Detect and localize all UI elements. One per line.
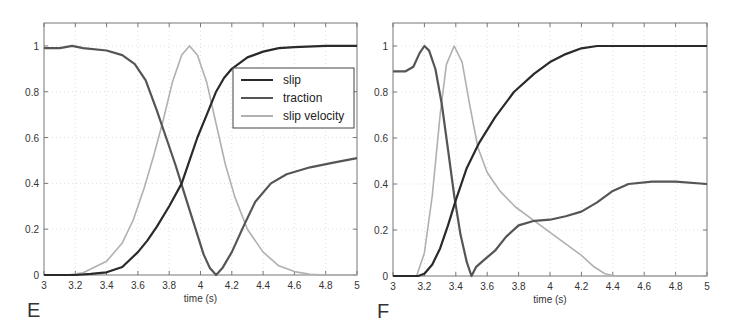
x-tick-label: 5 bbox=[704, 281, 710, 292]
y-tick-label: 0.4 bbox=[25, 178, 39, 189]
legend-entry: slip bbox=[283, 73, 301, 87]
x-tick-label: 4.4 bbox=[256, 280, 270, 291]
x-tick-label: 4.8 bbox=[319, 280, 333, 291]
panel-e-chart: 33.23.43.63.844.24.44.64.8500.20.40.60.8… bbox=[25, 23, 360, 321]
y-tick-label: 0 bbox=[33, 270, 39, 281]
figure: 33.23.43.63.844.24.44.64.8500.20.40.60.8… bbox=[0, 0, 732, 331]
x-tick-label: 3.2 bbox=[417, 281, 431, 292]
x-tick-label: 3.6 bbox=[480, 281, 494, 292]
x-tick-label: 4.8 bbox=[669, 281, 683, 292]
panel-label: E bbox=[27, 299, 40, 321]
x-tick-label: 3 bbox=[41, 280, 47, 291]
x-tick-label: 4.4 bbox=[606, 281, 620, 292]
y-tick-label: 0.6 bbox=[25, 133, 39, 144]
y-tick-label: 1 bbox=[33, 41, 39, 52]
legend-entry: traction bbox=[283, 91, 322, 105]
x-tick-label: 5 bbox=[354, 280, 360, 291]
y-tick-label: 0 bbox=[382, 271, 388, 282]
x-axis-label: time (s) bbox=[533, 294, 566, 305]
y-tick-label: 0.2 bbox=[25, 224, 39, 235]
x-tick-label: 4.6 bbox=[637, 281, 651, 292]
legend: sliptractionslip velocity bbox=[233, 68, 354, 128]
x-tick-label: 4.2 bbox=[225, 280, 239, 291]
x-tick-label: 4.6 bbox=[287, 280, 301, 291]
y-tick-label: 0.4 bbox=[374, 179, 388, 190]
y-tick-label: 0.6 bbox=[374, 133, 388, 144]
y-tick-label: 0.2 bbox=[374, 225, 388, 236]
x-axis-label: time (s) bbox=[184, 293, 217, 304]
series-slip-velocity bbox=[393, 46, 707, 276]
x-tick-label: 3.2 bbox=[68, 280, 82, 291]
panel-f-chart: 33.23.43.63.844.24.44.64.8500.20.40.60.8… bbox=[374, 23, 710, 322]
legend-entry: slip velocity bbox=[283, 109, 344, 123]
x-tick-label: 3.8 bbox=[162, 280, 176, 291]
x-tick-label: 3 bbox=[390, 281, 396, 292]
axes-frame bbox=[44, 23, 357, 275]
x-tick-label: 4 bbox=[547, 281, 553, 292]
series-slip bbox=[393, 46, 707, 276]
x-tick-label: 3.6 bbox=[131, 280, 145, 291]
panel-label: F bbox=[377, 300, 389, 322]
x-tick-label: 3.4 bbox=[449, 281, 463, 292]
y-tick-label: 0.8 bbox=[374, 87, 388, 98]
x-tick-label: 4.2 bbox=[574, 281, 588, 292]
x-tick-label: 4 bbox=[198, 280, 204, 291]
series-traction bbox=[393, 46, 707, 276]
y-tick-label: 1 bbox=[382, 41, 388, 52]
x-tick-label: 3.4 bbox=[100, 280, 114, 291]
y-tick-label: 0.8 bbox=[25, 87, 39, 98]
x-tick-label: 3.8 bbox=[512, 281, 526, 292]
